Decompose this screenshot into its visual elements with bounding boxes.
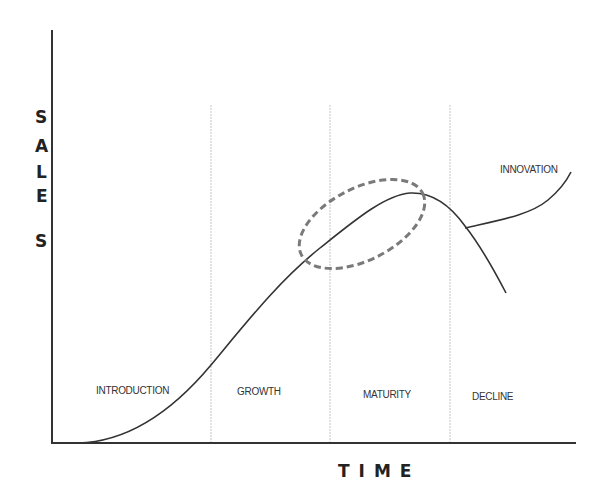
stage-label-growth: GROWTH: [237, 386, 281, 397]
innovation-curve: [465, 172, 571, 228]
y-axis-letter: S: [35, 107, 47, 127]
stage-label-introduction: INTRODUCTION: [96, 385, 169, 396]
sales-curve: [78, 193, 506, 443]
y-axis-letter: S: [35, 231, 47, 251]
maturity-highlight-ellipse: [285, 161, 439, 287]
y-axis-letter: E: [36, 186, 48, 206]
plc-diagram: [0, 0, 609, 504]
y-axis-letter: L: [36, 162, 47, 182]
x-axis-label: TIME: [338, 461, 420, 481]
y-axis-letter: A: [35, 136, 48, 156]
innovation-label: INNOVATION: [500, 164, 558, 175]
stage-label-maturity: MATURITY: [363, 389, 411, 400]
stage-label-decline: DECLINE: [472, 391, 513, 402]
